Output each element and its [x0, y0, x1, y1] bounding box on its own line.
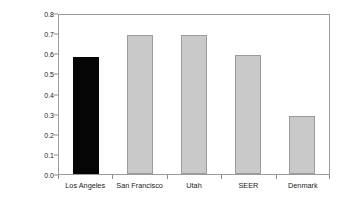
- x-axis-category-labels: Los Angeles San Francisco Utah SEER Denm…: [58, 182, 330, 190]
- y-axis-tick-labels: 0.0 0.1 0.2 0.3 0.4 0.5 0.6 0.7 0.8: [34, 14, 54, 175]
- bar-chart-figure: Annual incidence (per 100,000) 0.0 0.1 0…: [0, 0, 345, 204]
- x-axis-tick-marks: [58, 175, 330, 179]
- y-tick-label-5: 0.5: [44, 71, 54, 78]
- x-tick-mark-3: [221, 175, 222, 179]
- bar-los-angeles[interactable]: [73, 57, 99, 174]
- y-tick-label-0: 0.0: [44, 172, 54, 179]
- bar-san-francisco[interactable]: [127, 35, 153, 174]
- x-label-utah: Utah: [167, 182, 221, 190]
- bar-slot-denmark: [275, 15, 329, 174]
- x-tick-mark-4: [276, 175, 277, 179]
- bar-slot-los-angeles: [59, 15, 113, 174]
- y-tick-label-4: 0.4: [44, 91, 54, 98]
- bar-utah[interactable]: [181, 35, 207, 174]
- bar-slot-san-francisco: [113, 15, 167, 174]
- x-tick-mark-0: [58, 175, 59, 179]
- x-label-seer: SEER: [221, 182, 275, 190]
- bars-layer: [59, 15, 329, 174]
- y-axis-title: Annual incidence (per 100,000): [14, 0, 36, 36]
- y-tick-label-2: 0.2: [44, 131, 54, 138]
- x-label-los-angeles: Los Angeles: [58, 182, 112, 190]
- bar-slot-utah: [167, 15, 221, 174]
- bar-denmark[interactable]: [289, 116, 315, 174]
- y-tick-label-3: 0.3: [44, 111, 54, 118]
- y-tick-label-7: 0.7: [44, 31, 54, 38]
- y-tick-label-1: 0.1: [44, 151, 54, 158]
- x-label-san-francisco: San Francisco: [112, 182, 166, 190]
- plot-area: [58, 14, 330, 175]
- bar-slot-seer: [221, 15, 275, 174]
- x-tick-mark-2: [167, 175, 168, 179]
- y-tick-label-8: 0.8: [44, 11, 54, 18]
- x-tick-mark-5: [329, 175, 330, 179]
- x-tick-mark-1: [112, 175, 113, 179]
- y-tick-label-6: 0.6: [44, 51, 54, 58]
- bar-seer[interactable]: [235, 55, 261, 174]
- x-label-denmark: Denmark: [276, 182, 330, 190]
